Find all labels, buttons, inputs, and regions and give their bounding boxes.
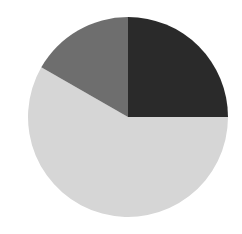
pie-slice-0 (128, 17, 228, 117)
pie-chart (0, 0, 242, 234)
pie-chart-canvas (0, 0, 242, 234)
